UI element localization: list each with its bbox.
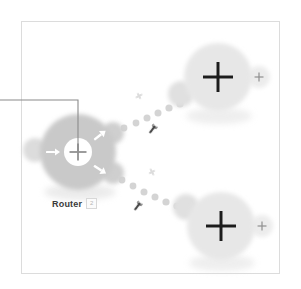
link-marker-icon <box>134 92 143 101</box>
router-label-text: Router <box>52 199 82 209</box>
node-bottom[interactable] <box>173 192 273 260</box>
router-label: Router 2 <box>52 198 97 209</box>
diagram-canvas: Router 2 <box>0 0 301 289</box>
diagram-graphics-layer <box>0 0 301 289</box>
link-router-bottom[interactable] <box>119 167 181 211</box>
wrench-icon[interactable] <box>147 124 158 135</box>
node-router[interactable] <box>23 114 124 190</box>
wrench-icon[interactable] <box>132 201 143 212</box>
link-marker-icon <box>148 167 157 176</box>
router-label-badge: 2 <box>86 198 97 209</box>
node-top[interactable] <box>168 43 270 111</box>
